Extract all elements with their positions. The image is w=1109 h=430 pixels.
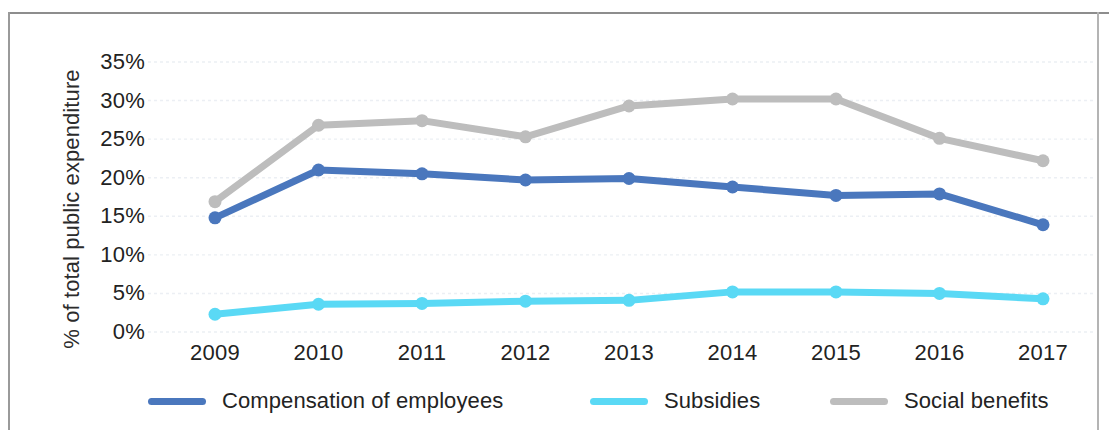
data-point[interactable] — [209, 308, 222, 321]
legend-label: Compensation of employees — [222, 388, 503, 414]
data-point[interactable] — [312, 298, 325, 311]
series-subsidies — [209, 285, 1050, 320]
data-point[interactable] — [933, 187, 946, 200]
x-tick-label: 2017 — [988, 340, 1098, 366]
x-tick-label: 2011 — [367, 340, 477, 366]
x-tick-label: 2014 — [678, 340, 788, 366]
figure-container: % of total public expenditure 0%5%10%15%… — [0, 0, 1109, 430]
data-point[interactable] — [623, 294, 636, 307]
series-compensation-of-employees — [209, 164, 1050, 232]
data-point[interactable] — [312, 164, 325, 177]
data-point[interactable] — [416, 297, 429, 310]
x-tick-label: 2016 — [885, 340, 995, 366]
legend-label: Social benefits — [904, 388, 1049, 414]
legend-item[interactable]: Social benefits — [830, 384, 1049, 418]
data-point[interactable] — [1037, 154, 1050, 167]
legend-item[interactable]: Subsidies — [590, 384, 760, 418]
data-point[interactable] — [623, 99, 636, 112]
data-point[interactable] — [1037, 218, 1050, 231]
data-point[interactable] — [726, 180, 739, 193]
data-point[interactable] — [312, 119, 325, 132]
x-tick-label: 2015 — [781, 340, 891, 366]
chart-legend: Compensation of employeesSubsidiesSocial… — [0, 384, 1109, 424]
data-point[interactable] — [933, 287, 946, 300]
data-point[interactable] — [209, 211, 222, 224]
data-point[interactable] — [519, 295, 532, 308]
data-point[interactable] — [416, 167, 429, 180]
x-tick-label: 2009 — [160, 340, 270, 366]
data-point[interactable] — [726, 285, 739, 298]
legend-item[interactable]: Compensation of employees — [148, 384, 503, 418]
x-tick-label: 2010 — [264, 340, 374, 366]
data-point[interactable] — [1037, 292, 1050, 305]
data-point[interactable] — [623, 172, 636, 185]
line-chart: % of total public expenditure 0%5%10%15%… — [0, 0, 1109, 430]
data-point[interactable] — [933, 132, 946, 145]
data-point[interactable] — [830, 285, 843, 298]
legend-color-swatch — [148, 398, 206, 405]
x-tick-label: 2013 — [574, 340, 684, 366]
data-point[interactable] — [726, 93, 739, 106]
legend-color-swatch — [830, 398, 888, 405]
data-point[interactable] — [209, 195, 222, 208]
legend-label: Subsidies — [664, 388, 760, 414]
x-tick-label: 2012 — [471, 340, 581, 366]
data-point[interactable] — [416, 114, 429, 127]
data-point[interactable] — [830, 189, 843, 202]
data-point[interactable] — [830, 93, 843, 106]
legend-color-swatch — [590, 398, 648, 405]
data-point[interactable] — [519, 130, 532, 143]
series-line — [215, 99, 1043, 202]
data-point[interactable] — [519, 174, 532, 187]
